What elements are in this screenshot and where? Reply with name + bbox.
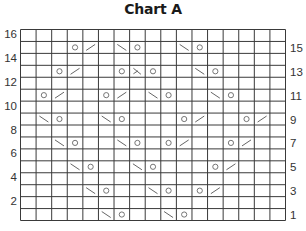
k2tog-icon xyxy=(211,188,220,194)
k2tog-icon xyxy=(117,92,126,98)
yarn-over-icon xyxy=(182,116,187,121)
yarn-over-icon xyxy=(104,188,109,193)
ssk-icon xyxy=(149,188,158,194)
row-label-13: 13 xyxy=(290,66,303,78)
row-label-10: 10 xyxy=(3,100,17,112)
yarn-over-icon xyxy=(119,116,124,121)
row-label-3: 3 xyxy=(290,185,296,197)
row-label-5: 5 xyxy=(290,161,296,173)
k2tog-icon xyxy=(180,140,189,146)
k2tog-icon xyxy=(226,164,235,170)
row-label-14: 14 xyxy=(3,52,17,64)
row-label-9: 9 xyxy=(290,114,296,126)
yarn-over-icon xyxy=(213,69,218,74)
k2tog-icon xyxy=(258,116,267,122)
yarn-over-icon xyxy=(213,164,218,169)
chart-title: Chart A xyxy=(0,1,306,17)
ssk-icon xyxy=(55,140,64,146)
yarn-over-icon xyxy=(119,212,124,217)
ssk-icon xyxy=(71,164,80,170)
ssk-icon xyxy=(195,68,204,74)
yarn-over-icon xyxy=(57,69,62,74)
ssk-icon xyxy=(133,164,142,170)
ssk-icon xyxy=(211,92,220,98)
yarn-over-icon xyxy=(150,164,155,169)
k2tog-icon xyxy=(195,116,204,122)
row-label-12: 12 xyxy=(3,76,17,88)
yarn-over-icon xyxy=(182,212,187,217)
yarn-over-icon xyxy=(72,45,77,50)
yarn-over-icon xyxy=(166,188,171,193)
yarn-over-icon xyxy=(228,140,233,145)
yarn-over-icon xyxy=(228,93,233,98)
row-label-7: 7 xyxy=(290,137,296,149)
yarn-over-icon xyxy=(197,188,202,193)
k2tog-icon xyxy=(55,92,64,98)
row-label-11: 11 xyxy=(290,90,302,102)
ssk-icon xyxy=(180,44,189,50)
sk2p-icon xyxy=(133,68,141,74)
ssk-icon xyxy=(149,92,158,98)
knitting-chart-grid xyxy=(20,29,286,221)
row-label-8: 8 xyxy=(3,124,17,136)
ssk-icon xyxy=(117,44,126,50)
ssk-icon xyxy=(164,212,173,218)
yarn-over-icon xyxy=(244,116,249,121)
yarn-over-icon xyxy=(166,93,171,98)
ssk-icon xyxy=(117,140,126,146)
ssk-icon xyxy=(102,212,111,218)
k2tog-icon xyxy=(242,140,251,146)
ssk-icon xyxy=(86,188,95,194)
yarn-over-icon xyxy=(135,45,140,50)
yarn-over-icon xyxy=(88,164,93,169)
row-label-2: 2 xyxy=(3,195,17,207)
yarn-over-icon xyxy=(57,116,62,121)
yarn-over-icon xyxy=(72,140,77,145)
ssk-icon xyxy=(39,116,48,122)
yarn-over-icon xyxy=(104,93,109,98)
k2tog-icon xyxy=(71,68,80,74)
yarn-over-icon xyxy=(41,93,46,98)
row-label-15: 15 xyxy=(290,42,303,54)
ssk-icon xyxy=(102,116,111,122)
row-label-1: 1 xyxy=(290,209,296,221)
row-label-4: 4 xyxy=(3,171,17,183)
yarn-over-icon xyxy=(119,69,124,74)
row-label-16: 16 xyxy=(3,28,17,40)
yarn-over-icon xyxy=(166,140,171,145)
k2tog-icon xyxy=(86,44,95,50)
row-label-6: 6 xyxy=(3,147,17,159)
yarn-over-icon xyxy=(197,45,202,50)
yarn-over-icon xyxy=(150,69,155,74)
yarn-over-icon xyxy=(135,140,140,145)
